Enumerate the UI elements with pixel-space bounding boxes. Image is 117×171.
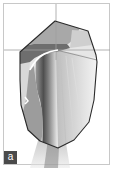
bone-diagram — [0, 0, 117, 171]
shaded-regions — [15, 15, 105, 155]
panel-label: a — [4, 151, 17, 164]
